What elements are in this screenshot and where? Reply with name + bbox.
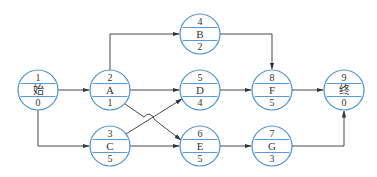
node-C: 3 C 5 xyxy=(90,126,130,166)
node-number: 3 xyxy=(108,128,113,139)
node-duration: 5 xyxy=(198,153,203,164)
node-name: F xyxy=(269,84,275,96)
node-duration: 3 xyxy=(270,153,275,164)
edge-B-F xyxy=(220,34,272,69)
node-number: 6 xyxy=(198,128,203,139)
node-end: 9 终 0 xyxy=(324,70,364,110)
node-number: 7 xyxy=(270,128,275,139)
node-duration: 4 xyxy=(198,97,203,108)
node-name: D xyxy=(196,84,204,96)
node-start: 1 始 0 xyxy=(18,70,58,110)
node-A: 2 A 1 xyxy=(90,70,130,110)
node-duration: 5 xyxy=(108,153,113,164)
node-name: E xyxy=(197,140,204,152)
node-duration: 2 xyxy=(198,41,203,52)
edge-G-end xyxy=(292,111,344,146)
node-number: 9 xyxy=(342,72,347,83)
edge-A-B xyxy=(110,34,179,70)
node-name: A xyxy=(106,84,114,96)
node-G: 7 G 3 xyxy=(252,126,292,166)
node-duration: 1 xyxy=(108,97,113,108)
node-number: 8 xyxy=(270,72,275,83)
node-number: 4 xyxy=(198,16,203,27)
edge-C-D xyxy=(126,99,182,134)
node-E: 6 E 5 xyxy=(180,126,220,166)
node-number: 1 xyxy=(36,72,41,83)
edge-A-E xyxy=(125,104,181,140)
node-name: B xyxy=(196,28,203,40)
node-duration: 0 xyxy=(36,97,41,108)
node-duration: 5 xyxy=(270,97,275,108)
node-name: G xyxy=(268,140,276,152)
network-diagram: 1 始 0 2 A 1 3 C 5 4 B 2 5 D 4 xyxy=(0,0,377,177)
node-name: 终 xyxy=(339,83,350,96)
node-name: C xyxy=(106,140,113,152)
node-number: 5 xyxy=(198,72,203,83)
node-F: 8 F 5 xyxy=(252,70,292,110)
node-number: 2 xyxy=(108,72,113,83)
edge-start-C xyxy=(38,110,89,146)
node-duration: 0 xyxy=(342,97,347,108)
node-B: 4 B 2 xyxy=(180,14,220,54)
node-name: 始 xyxy=(33,83,44,96)
node-D: 5 D 4 xyxy=(180,70,220,110)
